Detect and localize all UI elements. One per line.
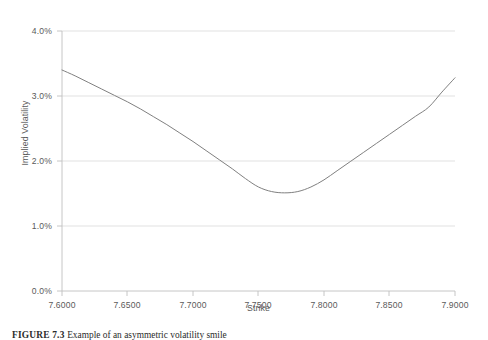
x-axis-title: Strike <box>62 303 455 313</box>
chart-svg <box>0 0 488 316</box>
y-tick-label-3: 3.0% <box>8 91 52 101</box>
y-axis-title: Implied Volatility <box>20 78 30 188</box>
volatility-smile-curve <box>62 70 455 193</box>
chart-plot-area: 4.0% 3.0% 2.0% 1.0% 0.0% 7.6000 7.6500 7… <box>0 0 488 316</box>
x-axis-ticks <box>62 291 455 296</box>
y-tick-label-2: 2.0% <box>8 156 52 166</box>
figure-caption: FIGURE 7.3 Example of an asymmetric vola… <box>12 329 482 340</box>
figure-caption-label: FIGURE 7.3 <box>12 330 65 340</box>
y-axis-ticks <box>57 31 62 291</box>
y-tick-label-1: 1.0% <box>8 221 52 231</box>
figure-caption-text: Example of an asymmetric volatility smil… <box>67 330 227 340</box>
y-tick-label-0: 0.0% <box>8 286 52 296</box>
gridlines <box>62 31 455 226</box>
y-tick-label-4: 4.0% <box>8 26 52 36</box>
